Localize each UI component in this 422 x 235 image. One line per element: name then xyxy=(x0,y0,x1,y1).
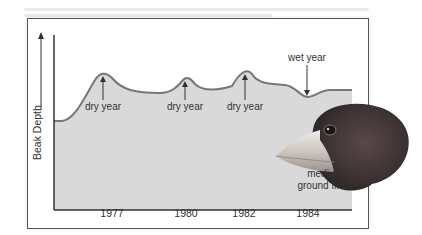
dry-year-label-3: dry year xyxy=(227,101,263,112)
finch-label-line-2: ground finch xyxy=(290,180,360,192)
finch-label-line-1: medium xyxy=(290,168,360,180)
x-tick-1977: 1977 xyxy=(100,207,123,219)
dry-year-label-1: dry year xyxy=(85,101,121,112)
wet-year-label: wet year xyxy=(288,52,326,63)
y-axis-label: Beak Depth xyxy=(31,105,43,160)
beak-depth-plot xyxy=(0,0,422,235)
x-tick-1982: 1982 xyxy=(232,207,255,219)
y-axis-arrow-head xyxy=(38,32,44,39)
dry-year-label-2: dry year xyxy=(167,101,203,112)
x-tick-1984: 1984 xyxy=(296,207,319,219)
arrow-down-icon xyxy=(304,90,310,96)
finch-label: medium ground finch xyxy=(290,168,360,192)
x-tick-1980: 1980 xyxy=(174,207,197,219)
